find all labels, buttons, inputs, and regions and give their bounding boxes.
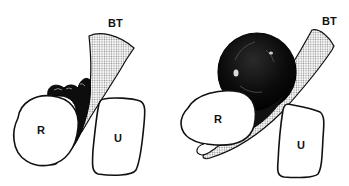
label-u-right: U xyxy=(297,139,305,151)
anatomical-figure: R U BT R U BT xyxy=(0,0,349,186)
left-panel: R U BT xyxy=(14,17,145,175)
label-bt-right: BT xyxy=(322,15,337,27)
sphere-highlight xyxy=(234,70,239,77)
label-r-right: R xyxy=(214,113,222,125)
right-panel: R U BT xyxy=(181,15,337,178)
sphere-highlight-2 xyxy=(269,52,273,55)
label-u-left: U xyxy=(114,132,122,144)
label-r-left: R xyxy=(37,124,45,136)
r-structure-left xyxy=(14,96,79,166)
label-bt-left: BT xyxy=(108,17,123,29)
